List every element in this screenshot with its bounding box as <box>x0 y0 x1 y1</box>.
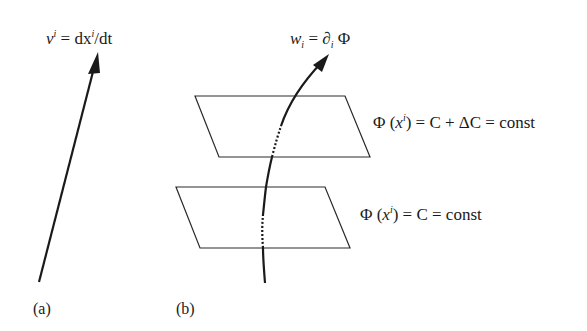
partial-symbol: ∂ <box>322 29 330 48</box>
label-var: x <box>395 113 403 132</box>
label-suffix: ) = C + ΔC = const <box>406 113 535 132</box>
equals-sign: = <box>56 29 74 48</box>
equation-rhs: dx <box>74 29 91 48</box>
equation-symbol: v <box>46 29 54 48</box>
equals-sign: = <box>304 29 322 48</box>
equation-rhs-tail: Φ <box>333 29 350 48</box>
panel-label-a: (a) <box>33 300 51 318</box>
diagram-canvas <box>0 0 587 331</box>
label-var: x <box>382 205 390 224</box>
label-suffix: ) = C = const <box>393 205 482 224</box>
panel-a-arrow <box>39 52 100 282</box>
label-prefix: Φ ( <box>373 113 395 132</box>
gradient-equation: wi = ∂i Φ <box>290 30 350 47</box>
upper-surface-label: Φ (xi) = C + ΔC = const <box>373 114 535 131</box>
panel-b-curved-arrow <box>262 62 322 283</box>
equation-rhs-tail: /dt <box>94 29 112 48</box>
upper-level-surface-plane <box>195 96 370 157</box>
panel-label-b: (b) <box>176 300 195 318</box>
equation-symbol: w <box>290 29 301 48</box>
covector-diagram: vi = dxi/dt wi = ∂i Φ Φ (xi) = C + ΔC = … <box>0 0 587 331</box>
label-prefix: Φ ( <box>360 205 382 224</box>
lower-surface-label: Φ (xi) = C = const <box>360 206 482 223</box>
arrowhead-icon <box>88 52 100 74</box>
velocity-equation: vi = dxi/dt <box>46 30 112 47</box>
